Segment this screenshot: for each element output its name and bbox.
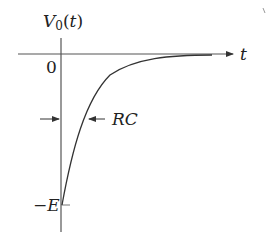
min-value-label: −E <box>33 195 60 215</box>
x-axis-label: t <box>240 44 247 64</box>
origin-label: 0 <box>46 57 57 77</box>
time-constant-label: RC <box>111 109 138 129</box>
exponential-curve <box>62 55 212 205</box>
rc-discharge-diagram: V0(t) 0 t RC −E <box>0 0 267 242</box>
stray-mark <box>263 8 265 13</box>
y-axis-label: V0(t) <box>43 11 83 33</box>
